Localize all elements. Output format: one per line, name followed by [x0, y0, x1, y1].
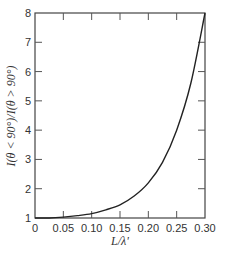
axis-ticks	[35, 13, 205, 218]
data-curve	[35, 13, 205, 218]
y-tick-label: 6	[25, 66, 31, 78]
y-axis-label: I(θ < 90°)/I(θ > 90°)	[4, 66, 18, 168]
x-tick-label: 0.30	[194, 222, 215, 234]
y-tick-label: 5	[25, 95, 31, 107]
y-tick-label: 7	[25, 36, 31, 48]
x-tick-labels: 00.050.100.150.200.250.30	[32, 222, 216, 234]
y-tick-label: 1	[25, 212, 31, 224]
y-tick-label: 3	[25, 153, 31, 165]
x-tick-label: 0.10	[81, 222, 102, 234]
y-tick-label: 8	[25, 7, 31, 19]
x-tick-label: 0.20	[138, 222, 159, 234]
x-tick-label: 0.15	[109, 222, 130, 234]
x-tick-label: 0.05	[53, 222, 74, 234]
y-tick-label: 2	[25, 183, 31, 195]
plot-frame	[35, 13, 205, 218]
x-tick-label: 0.25	[166, 222, 187, 234]
y-tick-labels: 12345678	[25, 7, 31, 224]
chart: 00.050.100.150.200.250.30 12345678 L/λ' …	[0, 0, 226, 254]
axes-box	[35, 13, 205, 218]
x-tick-label: 0	[32, 222, 38, 234]
y-tick-label: 4	[25, 124, 31, 136]
x-axis-label: L/λ'	[110, 234, 129, 248]
